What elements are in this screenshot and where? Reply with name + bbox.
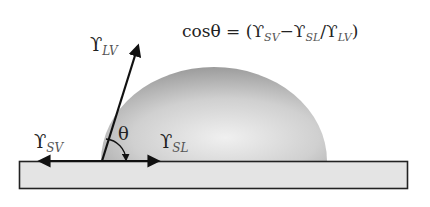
gamma-lv-subscript: LV	[102, 44, 117, 58]
formula-equals: =	[221, 21, 246, 41]
young-equation: cosθ = (ϒSV−ϒSL/ϒLV)	[182, 21, 358, 41]
formula-sub-lv: LV	[338, 31, 352, 44]
gamma-symbol: ϒ	[160, 131, 172, 152]
contact-angle-diagram: ϒLV ϒSV ϒSL θ cosθ = (ϒSV−ϒSL/ϒLV)	[0, 0, 430, 207]
formula-sub-sl: SL	[306, 31, 321, 44]
formula-sub-sv: SV	[264, 31, 279, 44]
gamma-symbol: ϒ	[34, 131, 46, 152]
formula-gamma-lv: ϒ	[326, 21, 338, 41]
gamma-sl-subscript: SL	[172, 141, 188, 155]
gamma-symbol: ϒ	[90, 34, 102, 55]
formula-paren-close: )	[352, 21, 359, 41]
gamma-lv-label: ϒLV	[90, 34, 118, 55]
formula-gamma-sv: ϒ	[252, 21, 264, 41]
formula-minus: −	[280, 21, 294, 41]
theta-label: θ	[118, 123, 129, 144]
gamma-sv-subscript: SV	[46, 141, 63, 155]
liquid-droplet	[101, 67, 327, 161]
formula-gamma-sl: ϒ	[294, 21, 306, 41]
gamma-sl-label: ϒSL	[160, 131, 189, 152]
solid-substrate	[20, 162, 408, 189]
formula-lhs: cosθ	[182, 21, 221, 41]
gamma-sv-label: ϒSV	[34, 131, 63, 152]
